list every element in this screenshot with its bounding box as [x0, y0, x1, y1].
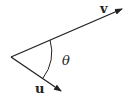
vector-angle-diagram: v u θ: [0, 0, 131, 98]
vector-v-arrow: [11, 9, 122, 57]
angle-arc: [43, 40, 52, 78]
vector-v-label: v: [99, 1, 108, 16]
angle-theta-label: θ: [62, 53, 70, 68]
vector-u-label: u: [35, 81, 44, 96]
